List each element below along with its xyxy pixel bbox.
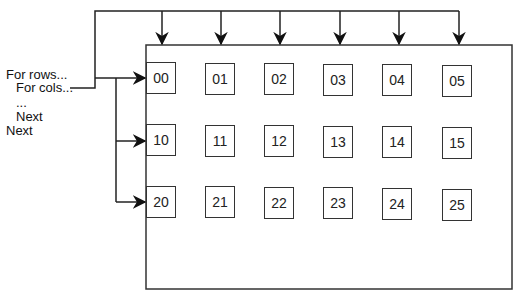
cell-23: 23 bbox=[323, 187, 353, 219]
cell-10: 10 bbox=[146, 124, 176, 156]
cell-25: 25 bbox=[442, 189, 472, 221]
cell-03: 03 bbox=[323, 64, 353, 96]
pseudo-for-cols: For cols... bbox=[16, 81, 73, 95]
pseudo-ellipsis: ... bbox=[16, 96, 27, 110]
cell-11: 11 bbox=[205, 125, 235, 157]
cell-22: 22 bbox=[264, 187, 294, 219]
cell-04: 04 bbox=[382, 64, 412, 96]
cell-05: 05 bbox=[442, 65, 472, 97]
cell-14: 14 bbox=[382, 126, 412, 158]
pseudo-next-inner: Next bbox=[16, 110, 43, 124]
cell-13: 13 bbox=[323, 126, 353, 158]
cell-00: 00 bbox=[146, 62, 176, 94]
cell-21: 21 bbox=[205, 186, 235, 218]
cell-02: 02 bbox=[264, 63, 294, 95]
cell-15: 15 bbox=[442, 127, 472, 159]
cell-01: 01 bbox=[205, 63, 235, 95]
pseudo-next-outer: Next bbox=[6, 124, 33, 138]
cell-20: 20 bbox=[146, 186, 176, 218]
cell-12: 12 bbox=[264, 125, 294, 157]
cell-24: 24 bbox=[382, 188, 412, 220]
